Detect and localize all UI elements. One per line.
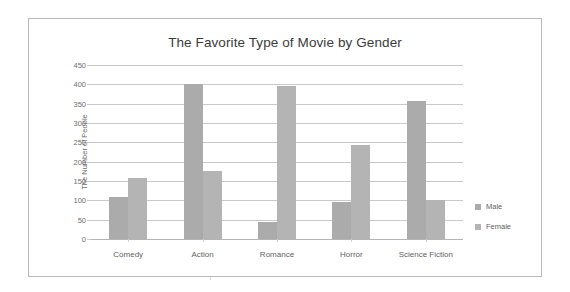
stray-tick-mark: [210, 277, 211, 280]
bar-pair: [389, 65, 463, 239]
bar-group: Horror: [314, 65, 388, 239]
bar-pair: [91, 65, 165, 239]
bar-group: Action: [165, 65, 239, 239]
bar-group: Science Fiction: [389, 65, 463, 239]
y-tick-label: 0: [82, 235, 86, 244]
legend-swatch-icon: [475, 224, 481, 230]
legend-item-female[interactable]: Female: [475, 222, 545, 231]
y-tick-label: 100: [73, 196, 86, 205]
x-tick-label: Action: [191, 250, 213, 259]
y-tick-label: 400: [73, 80, 86, 89]
x-tick-mark: [351, 239, 352, 242]
bar-horror-male[interactable]: [332, 202, 351, 239]
y-tick-label: 50: [78, 215, 86, 224]
plot-area: The Number of People 4504003503002502001…: [91, 65, 463, 239]
bar-romance-female[interactable]: [277, 86, 296, 239]
bar-group: Romance: [240, 65, 314, 239]
bar-action-male[interactable]: [184, 84, 203, 239]
x-tick-mark: [128, 239, 129, 242]
x-tick-mark: [203, 239, 204, 242]
bar-horror-female[interactable]: [351, 145, 370, 239]
legend-label: Male: [486, 202, 502, 211]
bar-science-fiction-female[interactable]: [426, 200, 445, 239]
x-tick-label: Comedy: [113, 250, 143, 259]
bar-pair: [314, 65, 388, 239]
chart-page: The Favorite Type of Movie by Gender The…: [0, 0, 570, 292]
y-tick-label: 350: [73, 99, 86, 108]
x-tick-label: Romance: [260, 250, 294, 259]
bar-science-fiction-male[interactable]: [407, 101, 426, 239]
legend-label: Female: [486, 222, 511, 231]
y-tick-mark: [87, 239, 91, 240]
x-tick-label: Science Fiction: [399, 250, 453, 259]
bar-group: Comedy: [91, 65, 165, 239]
y-tick-label: 150: [73, 177, 86, 186]
bar-comedy-male[interactable]: [109, 197, 128, 239]
bar-romance-male[interactable]: [258, 222, 277, 239]
figure-frame: The Favorite Type of Movie by Gender The…: [28, 18, 542, 277]
x-tick-label: Horror: [340, 250, 363, 259]
x-tick-mark: [277, 239, 278, 242]
y-tick-label: 250: [73, 138, 86, 147]
bar-action-female[interactable]: [203, 171, 222, 239]
x-tick-mark: [426, 239, 427, 242]
y-tick-label: 450: [73, 61, 86, 70]
chart-legend: MaleFemale: [475, 202, 545, 242]
bar-pair: [240, 65, 314, 239]
legend-swatch-icon: [475, 204, 481, 210]
legend-item-male[interactable]: Male: [475, 202, 545, 211]
y-tick-label: 200: [73, 157, 86, 166]
bar-comedy-female[interactable]: [128, 178, 147, 239]
bar-pair: [165, 65, 239, 239]
chart-title: The Favorite Type of Movie by Gender: [29, 35, 541, 50]
y-tick-label: 300: [73, 119, 86, 128]
